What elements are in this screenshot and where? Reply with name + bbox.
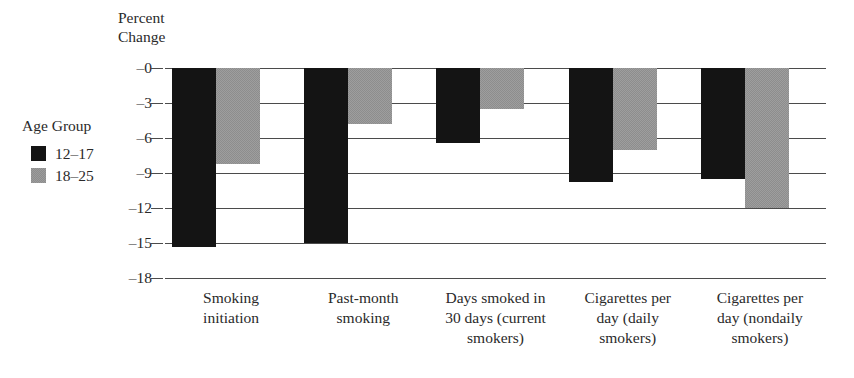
y-axis-tick-label: –3 — [104, 95, 152, 111]
bar — [613, 68, 657, 150]
bar — [701, 68, 745, 179]
legend-label-12-17: 12–17 — [55, 144, 94, 163]
bar — [569, 68, 613, 182]
y-axis-tick-label: –0 — [104, 60, 152, 76]
x-axis-category-label: Cigarettes per day (nondaily smokers) — [682, 288, 838, 348]
bar — [436, 68, 480, 143]
y-axis-tick-label: –15 — [104, 235, 152, 251]
x-axis-category-labels: Smoking initiationPast-month smokingDays… — [165, 288, 826, 372]
gridline — [165, 243, 826, 244]
bar — [480, 68, 524, 109]
y-axis-tick — [151, 138, 163, 139]
gridline — [165, 278, 826, 279]
y-axis-tick-labels: –0–3–6–9–12–15–18 — [110, 68, 152, 278]
legend-label-18-25: 18–25 — [55, 166, 94, 185]
y-axis-tick-label: –6 — [104, 130, 152, 146]
legend-swatch-light — [31, 168, 46, 183]
bar — [745, 68, 789, 208]
y-axis-tick-label: –9 — [104, 165, 152, 181]
bar — [172, 68, 216, 247]
y-axis-tick — [151, 243, 163, 244]
y-axis-title: Percent Change — [118, 8, 228, 46]
y-axis-tick — [151, 103, 163, 104]
y-axis-tick — [151, 68, 163, 69]
gridline — [165, 208, 826, 209]
y-axis-tick — [151, 278, 163, 279]
plot-area — [165, 68, 826, 278]
legend-swatch-dark — [31, 146, 46, 161]
bar — [348, 68, 392, 124]
bar — [304, 68, 348, 243]
y-axis-tick-label: –18 — [104, 270, 152, 286]
y-axis-tick — [151, 173, 163, 174]
bar-chart-figure: Percent Change Age Group 12–17 18–25 –0–… — [0, 0, 854, 378]
bar — [216, 68, 260, 164]
y-axis-tick-label: –12 — [104, 200, 152, 216]
y-axis-tick — [151, 208, 163, 209]
